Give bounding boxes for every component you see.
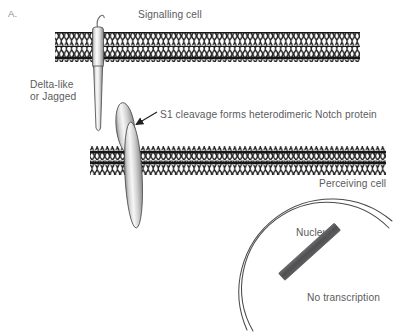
nucleus-label: Nucleus xyxy=(296,227,334,239)
perceiving-cell-label: Perceiving cell xyxy=(319,178,386,190)
delta-jagged-label-line1: Delta-like xyxy=(30,79,76,91)
signalling-cell-label: Signalling cell xyxy=(138,9,202,21)
diagram-canvas xyxy=(0,0,406,335)
s1-cleavage-arrow xyxy=(136,112,157,125)
cropped-caption-strip xyxy=(0,325,406,335)
delta-jagged-label: Delta-like or Jagged xyxy=(30,79,76,102)
nucleus-envelope xyxy=(239,199,392,331)
notch-signalling-diagram: A. Signalling cell Delta-like or Jagged … xyxy=(0,0,406,335)
delta-jagged-label-line2: or Jagged xyxy=(30,91,76,103)
panel-label: A. xyxy=(8,9,17,20)
s1-cleavage-label: S1 cleavage forms heterodimeric Notch pr… xyxy=(160,109,377,121)
notch-transmembrane-subunit xyxy=(122,122,145,229)
no-transcription-label: No transcription xyxy=(307,292,380,304)
delta-jagged-ligand xyxy=(93,15,105,131)
